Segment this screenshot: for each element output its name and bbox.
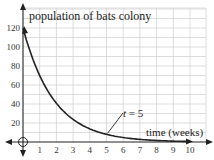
- svg-text:4: 4: [88, 145, 93, 155]
- svg-text:3: 3: [71, 145, 76, 155]
- svg-text:6: 6: [121, 145, 126, 155]
- x-axis-label: time (weeks): [146, 126, 203, 139]
- svg-text:100: 100: [7, 42, 21, 52]
- svg-text:2: 2: [54, 145, 59, 155]
- svg-text:60: 60: [11, 80, 21, 90]
- svg-text:9: 9: [171, 145, 176, 155]
- annotation-label: t = 5: [123, 107, 144, 119]
- svg-text:8: 8: [154, 145, 159, 155]
- svg-text:20: 20: [11, 118, 21, 128]
- svg-text:1: 1: [37, 145, 42, 155]
- svg-text:120: 120: [7, 23, 21, 33]
- svg-text:10: 10: [186, 145, 196, 155]
- svg-text:40: 40: [11, 99, 21, 109]
- svg-text:7: 7: [138, 145, 143, 155]
- decay-chart: 1234567891020406080100120 t = 5 populati…: [0, 0, 214, 160]
- grid: [23, 8, 206, 142]
- svg-text:5: 5: [104, 145, 109, 155]
- chart-title: population of bats colony: [29, 9, 151, 23]
- svg-text:80: 80: [11, 61, 21, 71]
